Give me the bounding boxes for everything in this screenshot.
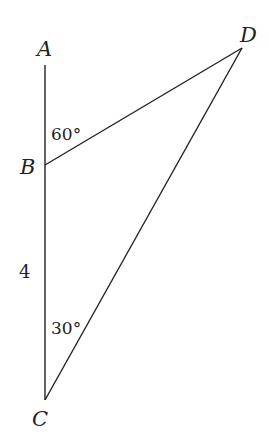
segment-cd bbox=[45, 48, 242, 400]
angle-label-30: 30° bbox=[51, 318, 81, 338]
label-b: B bbox=[19, 155, 35, 179]
label-a: A bbox=[35, 37, 52, 61]
segment-bd bbox=[45, 48, 242, 165]
length-label-bc: 4 bbox=[19, 261, 30, 282]
label-c: C bbox=[32, 407, 48, 431]
label-d: D bbox=[239, 23, 257, 47]
triangle-diagram: A B C D 60° 30° 4 bbox=[0, 0, 269, 441]
angle-label-60: 60° bbox=[51, 124, 81, 144]
